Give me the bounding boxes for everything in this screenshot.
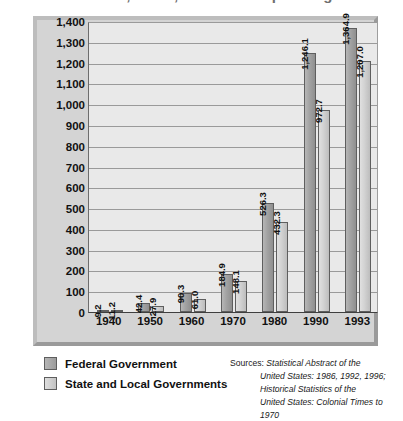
x-axis-tick-labels: 1940195019601970198019901993 [88, 315, 378, 333]
x-axis-tick: 1950 [137, 315, 163, 327]
sources-line: United States: 1986, 1992, 1996; [230, 370, 400, 383]
y-axis-tick: 1,000 [56, 99, 85, 111]
sources-note: Sources: Statistical Abstract of theUnit… [230, 357, 400, 421]
bar-state-local: 148.1 [235, 281, 247, 312]
y-axis-tick: 300 [66, 245, 85, 257]
x-axis-tick: 1980 [262, 315, 288, 327]
bar-value-label: 526.3 [257, 192, 268, 216]
bar-value-label: 184.9 [216, 263, 227, 287]
y-axis-tick: 800 [66, 141, 85, 153]
bar-value-label: 1,207.0 [354, 46, 365, 78]
bar-group: 9.211.2 [97, 23, 123, 312]
bar-value-label: 148.1 [230, 270, 241, 294]
sources-lead: Sources: [230, 358, 264, 368]
bar-state-local: 11.2 [111, 310, 123, 312]
bar-group: 184.9148.1 [221, 23, 247, 312]
y-axis-tick: 200 [66, 265, 85, 277]
legend-label-state-local: State and Local Governments [65, 378, 227, 390]
y-axis-tick: 600 [66, 182, 85, 194]
bar-group: 526.3432.3 [262, 23, 288, 312]
bar-state-local: 61.0 [194, 299, 206, 312]
y-axis-tick: 0 [79, 307, 85, 319]
legend-label-federal: Federal Government [65, 358, 177, 370]
bar-value-label: 27.9 [147, 298, 158, 317]
plot-area: 9.211.242.427.990.361.0184.9148.1526.343… [88, 22, 378, 313]
x-axis-tick: 1970 [220, 315, 246, 327]
legend-item-state-local: State and Local Governments [44, 377, 227, 390]
legend-item-federal: Federal Government [44, 357, 227, 370]
chart-title-cropped: Federal, State, and Local Spending [0, 0, 403, 5]
x-axis-tick: 1940 [96, 315, 122, 327]
y-axis-tick: 900 [66, 120, 85, 132]
bar-value-label: 61.0 [189, 291, 200, 310]
bar-group: 90.361.0 [180, 23, 206, 312]
bar-value-label: 1,364.9 [340, 13, 351, 45]
legend-swatch-state-local [44, 377, 57, 390]
y-axis-tick-labels: 01002003004005006007008009001,0001,1001,… [33, 22, 85, 313]
bar-state-local: 27.9 [152, 306, 164, 312]
bar-state-local: 972.7 [318, 110, 330, 312]
x-axis-tick: 1993 [344, 315, 370, 327]
x-axis-tick: 1960 [179, 315, 205, 327]
y-axis-tick: 1,400 [56, 16, 85, 28]
bar-value-label: 972.7 [313, 99, 324, 123]
y-axis-tick: 500 [66, 203, 85, 215]
chart-title-text: Federal, State, and Local Spending [0, 0, 403, 3]
bar-group: 42.427.9 [138, 23, 164, 312]
y-axis-tick: 700 [66, 162, 85, 174]
bar-value-label: 42.4 [133, 295, 144, 314]
bar-federal: 1,246.1 [304, 53, 316, 312]
bar-group: 1,364.91,207.0 [345, 23, 371, 312]
y-axis-tick: 1,200 [56, 58, 85, 70]
sources-line: United States: Colonial Times to [230, 396, 400, 409]
bar-state-local: 1,207.0 [359, 61, 371, 312]
legend: Federal Government State and Local Gover… [44, 357, 227, 397]
x-axis-tick: 1990 [303, 315, 329, 327]
bar-value-label: 90.3 [175, 285, 186, 304]
sources-line: Statistical Abstract of the [266, 358, 360, 368]
sources-line: Historical Statistics of the [230, 383, 400, 396]
y-axis-tick: 100 [66, 286, 85, 298]
sources-line: 1970 [230, 409, 400, 421]
bar-value-label: 1,246.1 [299, 38, 310, 70]
y-axis-tick: 1,100 [56, 78, 85, 90]
y-axis-tick: 1,300 [56, 37, 85, 49]
y-axis-tick: 400 [66, 224, 85, 236]
bar-state-local: 432.3 [276, 222, 288, 312]
bar-value-label: 432.3 [271, 211, 282, 235]
legend-swatch-federal [44, 357, 57, 370]
bar-group: 1,246.1972.7 [304, 23, 330, 312]
